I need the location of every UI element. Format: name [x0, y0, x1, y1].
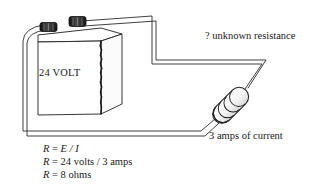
current-label: 3 amps of current: [209, 130, 283, 141]
formula-3-expression: 8 ohms: [61, 169, 92, 180]
formula-line-2: R = 24 volts / 3 amps: [43, 156, 132, 167]
negative-terminal: [40, 23, 57, 32]
formula-line-3: R = 8 ohms: [43, 169, 91, 180]
battery-voltage-label: 24 VOLT: [39, 67, 80, 78]
battery-side-face: [101, 34, 122, 114]
resistor: [209, 83, 253, 127]
formula-2-equals: =: [49, 156, 60, 167]
positive-terminal: [69, 17, 86, 27]
unknown-resistance-label: ? unknown resistance: [205, 30, 295, 41]
formula-2-expression: 24 volts / 3 amps: [61, 156, 133, 167]
formula-1-equals: =: [49, 143, 60, 154]
circuit-diagram-figure: 24 VOLT ? unknown resistance 3 amps of c…: [0, 0, 315, 189]
battery-terminals: [40, 17, 86, 32]
formula-line-1: R = E / I: [43, 143, 79, 154]
formula-1-expression: E / I: [61, 143, 79, 154]
formula-3-equals: =: [49, 169, 60, 180]
battery-front-face: [38, 41, 101, 115]
